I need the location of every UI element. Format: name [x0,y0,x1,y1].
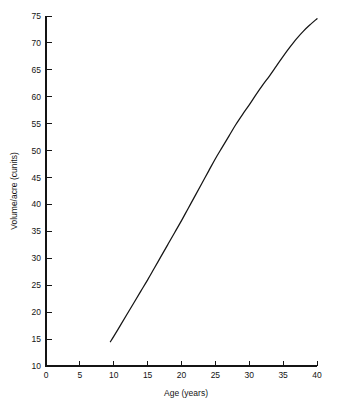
x-tick-label: 10 [109,370,119,380]
y-tick-label: 65 [32,65,42,75]
y-tick-label: 60 [32,92,42,102]
x-tick-label: 15 [143,370,153,380]
y-tick-label: 40 [32,199,42,209]
y-tick-label: 45 [32,173,42,183]
x-tick-label: 40 [312,370,322,380]
x-tick-label: 25 [211,370,221,380]
x-tick-label: 35 [278,370,288,380]
y-tick-label: 30 [32,253,42,263]
x-tick-label: 0 [44,370,49,380]
y-tick-label: 25 [32,280,42,290]
y-tick-label: 55 [32,119,42,129]
x-tick-label: 5 [78,370,83,380]
y-tick-label: 50 [32,146,42,156]
x-tick-label: 30 [245,370,255,380]
line-chart: 0510152025303540 10152025303540455055606… [0,0,339,404]
y-tick-label: 35 [32,226,42,236]
y-axis-title: Volume/acre (cunits) [9,152,19,230]
x-axis-title: Age (years) [164,388,208,398]
y-tick-label: 20 [32,307,42,317]
x-tick-label: 20 [177,370,187,380]
figure-background [0,0,339,404]
y-tick-label: 70 [32,38,42,48]
y-tick-label: 15 [32,334,42,344]
y-tick-label: 75 [32,11,42,21]
chart-figure: 0510152025303540 10152025303540455055606… [0,0,339,404]
y-tick-label: 10 [32,361,42,371]
